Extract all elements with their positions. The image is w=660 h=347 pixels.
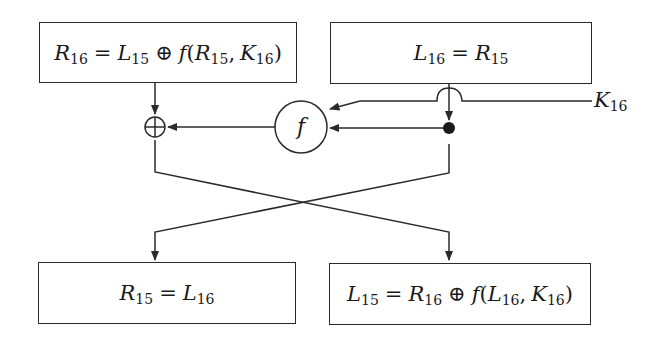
key-k16-label: K16 [594,88,628,112]
comma: , [228,41,235,65]
xor-sign: ⊕ [155,41,173,65]
var-l16: L16 [413,41,445,65]
open-paren: ( [187,41,195,65]
var-r16: R16 [408,282,442,306]
var-k16: K16 [240,41,274,65]
var-r16: R16 [54,41,88,65]
junction-dot [443,122,455,134]
var-l15: L15 [347,282,379,306]
cross-line-xor-to-bottom-right [155,140,449,260]
equals-sign: = [94,41,112,65]
var-l16: L16 [488,282,520,306]
xor-sign: ⊕ [448,282,466,306]
key-k16-line [330,88,592,109]
equals-sign: = [451,41,469,65]
xor-icon [145,117,165,137]
box-r16-equation: R16 = L15 ⊕ f(R15,K16) [39,22,297,83]
box-l16-equation: L16 = R15 [330,22,592,84]
var-l15: L15 [117,41,149,65]
close-paren: ) [565,282,573,306]
comma: , [519,282,526,306]
var-r15: R15 [475,41,509,65]
box-l15-equation: L15 = R16 ⊕ f(L16,K16) [329,263,591,325]
close-paren: ) [274,41,282,65]
open-paren: ( [480,282,488,306]
func-f: f [472,282,480,306]
var-k16: K16 [531,282,565,306]
func-f: f [179,41,187,65]
var-r15: R15 [195,41,229,65]
cross-line-junction-to-bottom-left [155,144,449,260]
var-l16: L16 [183,281,215,305]
equals-sign: = [159,281,177,305]
box-r15-equation: R15 = L16 [38,262,296,324]
var-r15: R15 [119,281,153,305]
function-f-label: f [297,114,305,139]
equals-sign: = [385,282,403,306]
